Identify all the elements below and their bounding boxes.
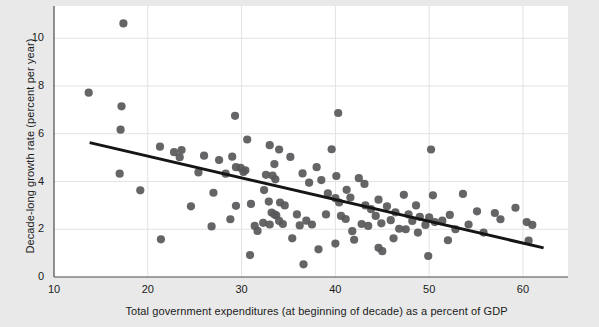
data-point bbox=[459, 190, 467, 198]
data-point bbox=[343, 186, 351, 194]
data-point bbox=[444, 236, 452, 244]
data-point bbox=[228, 153, 236, 161]
data-point bbox=[119, 19, 127, 27]
data-point bbox=[364, 222, 372, 230]
data-point bbox=[271, 175, 279, 183]
data-point bbox=[265, 197, 273, 205]
data-point bbox=[275, 145, 283, 153]
data-point bbox=[260, 186, 268, 194]
plot-canvas bbox=[0, 0, 599, 327]
data-point bbox=[387, 216, 395, 224]
data-point bbox=[350, 236, 358, 244]
data-point bbox=[305, 179, 313, 187]
data-point bbox=[328, 145, 336, 153]
data-point bbox=[226, 215, 234, 223]
data-point bbox=[116, 170, 124, 178]
data-point bbox=[491, 209, 499, 217]
data-point bbox=[308, 220, 316, 228]
data-point bbox=[293, 210, 301, 218]
data-point bbox=[412, 201, 420, 209]
data-point bbox=[266, 141, 274, 149]
data-point bbox=[314, 245, 322, 253]
data-point bbox=[389, 234, 397, 242]
x-axis-label: Total government expenditures (at beginn… bbox=[0, 305, 599, 317]
data-point bbox=[383, 202, 391, 210]
data-point bbox=[247, 200, 255, 208]
data-point bbox=[528, 221, 536, 229]
x-tick-label-3: 40 bbox=[315, 283, 355, 295]
data-point bbox=[298, 169, 306, 177]
data-point bbox=[331, 239, 339, 247]
data-point bbox=[414, 228, 422, 236]
data-point bbox=[251, 222, 259, 230]
x-tick-label-4: 50 bbox=[409, 283, 449, 295]
data-point bbox=[177, 146, 185, 154]
data-point bbox=[281, 201, 289, 209]
data-point bbox=[246, 251, 254, 259]
data-point bbox=[279, 220, 287, 228]
x-tick-label-2: 30 bbox=[222, 283, 262, 295]
y-tick-label-2: 4 bbox=[18, 175, 44, 187]
data-point bbox=[313, 163, 321, 171]
data-point bbox=[372, 212, 380, 220]
data-point bbox=[85, 89, 93, 97]
data-point bbox=[241, 166, 249, 174]
data-point bbox=[270, 160, 278, 168]
y-tick-label-0: 0 bbox=[18, 270, 44, 282]
data-point bbox=[232, 202, 240, 210]
data-point bbox=[374, 196, 382, 204]
data-point bbox=[377, 219, 385, 227]
data-point bbox=[346, 193, 354, 201]
data-point bbox=[395, 225, 403, 233]
data-point bbox=[286, 153, 294, 161]
data-point bbox=[176, 153, 184, 161]
data-point bbox=[332, 172, 340, 180]
y-tick-label-3: 6 bbox=[18, 127, 44, 139]
data-point bbox=[215, 156, 223, 164]
data-point bbox=[200, 152, 208, 160]
data-point bbox=[378, 247, 386, 255]
x-tick-label-0: 10 bbox=[34, 283, 74, 295]
data-point bbox=[446, 211, 454, 219]
data-point bbox=[334, 109, 342, 117]
data-point bbox=[116, 126, 124, 134]
data-point bbox=[317, 176, 325, 184]
data-point bbox=[207, 222, 215, 230]
data-point bbox=[187, 202, 195, 210]
data-point bbox=[322, 210, 330, 218]
data-point bbox=[342, 215, 350, 223]
data-point bbox=[424, 252, 432, 260]
data-point bbox=[427, 145, 435, 153]
data-point bbox=[157, 235, 165, 243]
data-point bbox=[464, 220, 472, 228]
scatter-chart-figure: Total government expenditures (at beginn… bbox=[0, 0, 599, 327]
y-tick-label-1: 2 bbox=[18, 222, 44, 234]
data-point bbox=[243, 135, 251, 143]
x-tick-label-1: 20 bbox=[128, 283, 168, 295]
data-point bbox=[296, 221, 304, 229]
data-point bbox=[117, 102, 125, 110]
data-point bbox=[360, 180, 368, 188]
data-point bbox=[473, 207, 481, 215]
data-point bbox=[511, 204, 519, 212]
data-point bbox=[231, 112, 239, 120]
y-tick-label-4: 8 bbox=[18, 79, 44, 91]
data-point bbox=[288, 234, 296, 242]
data-point bbox=[348, 227, 356, 235]
data-point bbox=[496, 215, 504, 223]
data-point bbox=[400, 191, 408, 199]
data-point bbox=[156, 143, 164, 151]
data-point bbox=[429, 191, 437, 199]
data-point bbox=[136, 186, 144, 194]
data-point bbox=[299, 260, 307, 268]
data-point bbox=[266, 220, 274, 228]
x-tick-label-5: 60 bbox=[503, 283, 543, 295]
y-tick-label-5: 10 bbox=[18, 31, 44, 43]
data-point bbox=[209, 189, 217, 197]
